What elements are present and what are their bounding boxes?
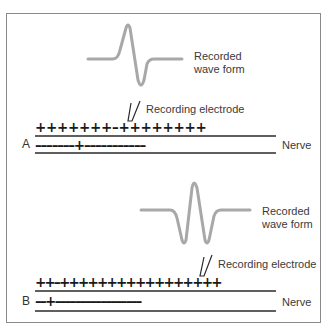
panel-b-waveform-label: Recorded wave form <box>262 205 313 231</box>
panel-a-nerve-label: Nerve <box>282 139 311 152</box>
waveform-label-line2: wave form <box>194 63 245 76</box>
electrode-a <box>128 101 140 121</box>
panel-b-electrode-label: Recording electrode <box>218 258 316 271</box>
waveform-label-line1: Recorded <box>194 50 245 63</box>
panel-a-electrode-label: Recording electrode <box>146 103 244 116</box>
panel-b-outer-charges: ++–+++++++++++++++++ <box>35 274 221 290</box>
panel-a-waveform-label: Recorded wave form <box>194 50 245 76</box>
electrode-b <box>200 255 212 276</box>
panel-a-label: A <box>22 137 30 151</box>
waveform-b <box>141 183 250 243</box>
waveform-a <box>88 25 182 85</box>
panel-a-inner-charges: –––––––+––––––––––– <box>35 137 145 153</box>
panel-a-outer-charges: +++++++–++++++++ <box>35 119 207 135</box>
waveform-label-line1: Recorded <box>262 205 313 218</box>
panel-b-label: B <box>22 294 30 308</box>
panel-b-nerve-label: Nerve <box>282 296 311 309</box>
waveform-label-line2: wave form <box>262 218 313 231</box>
panel-b-inner-charges: ––+––––––––––––––––– <box>35 293 141 309</box>
